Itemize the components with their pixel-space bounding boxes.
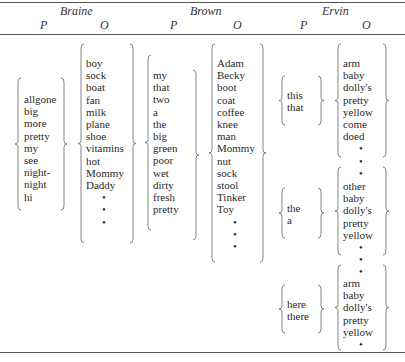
brace-brown-p-left xyxy=(144,55,152,230)
word-item: that xyxy=(153,81,179,93)
word-item: big xyxy=(24,105,56,117)
word-item: baby xyxy=(343,289,373,301)
word-item: pretty xyxy=(343,314,373,326)
left-brace-icon xyxy=(78,44,84,243)
brace-ervin-p1-left xyxy=(278,76,286,125)
left-brace-icon xyxy=(335,265,341,350)
brace-braine-p-right xyxy=(60,78,68,210)
word-item: fresh xyxy=(153,191,179,203)
ellipsis-dot: • xyxy=(343,167,363,179)
ellipsis-dot: • xyxy=(86,216,124,228)
brown-o-list: AdamBeckybootcoatcoffeekneemanMommynutso… xyxy=(217,57,255,252)
right-brace-icon xyxy=(318,188,324,238)
word-item: allgone xyxy=(24,93,56,105)
braine-p-list: allgonebigmoreprettymyseenight-nighthi xyxy=(24,93,56,203)
word-item: boy xyxy=(86,57,124,69)
brace-brown-p-right xyxy=(192,70,200,240)
word-item: other xyxy=(343,180,373,192)
ervin-between-dots-1: •• xyxy=(343,155,363,179)
brown-p-list: mythattwoathebiggreenpoorwetdirtyfreshpr… xyxy=(153,69,179,215)
word-item: night xyxy=(24,178,56,190)
ellipsis-dot: • xyxy=(343,142,373,154)
word-item: a xyxy=(153,106,179,118)
ellipsis-dot: • xyxy=(86,191,124,203)
ellipsis-dot: • xyxy=(343,241,373,253)
subheader-ervin-o: O xyxy=(362,19,371,31)
left-brace-icon xyxy=(145,55,151,230)
left-brace-icon xyxy=(15,78,21,210)
brace-ervin-p3-left xyxy=(278,285,286,333)
word-item: a xyxy=(287,214,300,226)
brace-braine-o-left xyxy=(77,44,85,243)
word-item: poor xyxy=(153,154,179,166)
word-item: come xyxy=(343,118,373,130)
word-item: boot xyxy=(217,81,255,93)
word-item: sock xyxy=(86,69,124,81)
header-rule xyxy=(0,34,405,35)
brace-ervin-o2-right xyxy=(382,167,390,255)
bottom-rule xyxy=(0,352,405,353)
brace-ervin-o1-left xyxy=(334,44,342,157)
word-item: see xyxy=(24,154,56,166)
brace-brown-o-left xyxy=(208,44,216,262)
braine-o-list: boysockboatfanmilkplaneshoevitaminshotMo… xyxy=(86,57,124,228)
ellipsis-dot: • xyxy=(343,155,363,167)
word-item: fan xyxy=(86,94,124,106)
left-brace-icon xyxy=(279,188,285,238)
word-item: Becky xyxy=(217,69,255,81)
subheader-braine-o: O xyxy=(100,19,109,31)
word-item: stool xyxy=(217,179,255,191)
word-item: vitamins xyxy=(86,142,124,154)
word-item: wet xyxy=(153,167,179,179)
word-item: the xyxy=(287,202,300,214)
word-item: Daddy xyxy=(86,179,124,191)
left-brace-icon xyxy=(279,285,285,333)
word-item: green xyxy=(153,142,179,154)
left-brace-icon xyxy=(335,167,341,255)
word-item: Mommy xyxy=(217,142,255,154)
word-item: yellow xyxy=(343,106,373,118)
header-braine: Braine xyxy=(60,5,93,17)
word-item: this xyxy=(287,89,304,101)
ervin-between-dots-2: •• xyxy=(343,253,363,277)
brace-ervin-p2-left xyxy=(278,188,286,238)
ervin-group3-p-list: herethere xyxy=(287,298,309,322)
left-brace-icon xyxy=(209,44,215,262)
word-item: baby xyxy=(343,69,373,81)
top-rule xyxy=(0,2,405,3)
word-item: big xyxy=(153,130,179,142)
brace-ervin-o2-left xyxy=(334,167,342,255)
brace-ervin-p3-right xyxy=(317,285,325,333)
word-item: night- xyxy=(24,166,56,178)
word-item: arm xyxy=(343,277,373,289)
word-item: hot xyxy=(86,155,124,167)
word-item: dolly's xyxy=(343,204,373,216)
subheader-brown-o: O xyxy=(233,19,242,31)
word-item: Toy xyxy=(217,203,255,215)
word-item: milk xyxy=(86,106,124,118)
right-brace-icon xyxy=(61,78,67,210)
word-item: here xyxy=(287,298,309,310)
right-brace-icon xyxy=(318,285,324,333)
brace-ervin-p2-right xyxy=(317,188,325,238)
ellipsis-dot: • xyxy=(343,253,363,265)
ervin-group2-o-list: otherbabydolly'sprettyyellow• xyxy=(343,180,373,253)
word-item: baby xyxy=(343,192,373,204)
word-item: doed xyxy=(343,130,373,142)
brace-ervin-p1-right xyxy=(317,76,325,125)
ellipsis-dot: • xyxy=(217,216,255,228)
word-item: there xyxy=(287,310,309,322)
brace-ervin-o3-right xyxy=(382,265,390,350)
brace-brown-o-right xyxy=(259,44,267,262)
word-item: nut xyxy=(217,155,255,167)
right-brace-icon xyxy=(383,44,389,157)
word-item: boat xyxy=(86,81,124,93)
word-item: yellow xyxy=(343,326,373,338)
word-item: Mommy xyxy=(86,167,124,179)
brace-braine-o-right xyxy=(129,44,137,243)
word-item: yellow xyxy=(343,229,373,241)
header-brown: Brown xyxy=(190,5,222,17)
ervin-group1-o-list: armbabydolly'sprettyyellowcomedoed• xyxy=(343,57,373,155)
word-item: man xyxy=(217,130,255,142)
word-item: dolly's xyxy=(343,301,373,313)
